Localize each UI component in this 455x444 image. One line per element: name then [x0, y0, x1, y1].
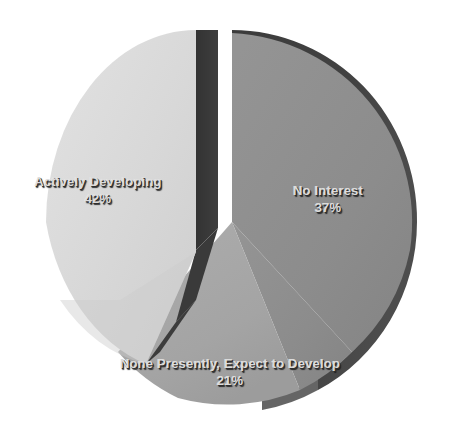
pie-chart-graphic: [0, 0, 455, 444]
pie-chart: Actively Developing 42% No Interest 37% …: [0, 0, 455, 444]
